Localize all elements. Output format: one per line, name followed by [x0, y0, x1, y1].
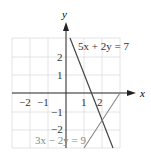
y-axis-label: y [61, 8, 67, 20]
x-tick-2: 2 [97, 96, 103, 108]
x-tick-neg1: −1 [37, 96, 49, 108]
y-tick-neg1: −1 [51, 106, 63, 118]
y-tick-2: 2 [57, 51, 63, 63]
x-axis-label: x [139, 87, 145, 99]
x-tick-neg2: −2 [19, 96, 31, 108]
chart: x y −2 −1 1 2 2 1 −1 −2 5x + 2y = 7 3x −… [0, 0, 151, 157]
x-tick-1: 1 [81, 96, 87, 108]
x-axis-arrow-icon [127, 90, 136, 96]
y-tick-1: 1 [57, 69, 63, 81]
equation-label-1: 5x + 2y = 7 [78, 40, 129, 52]
y-axis-arrow-icon [63, 22, 69, 31]
equation-label-2: 3x − 2y = 9 [35, 134, 86, 146]
